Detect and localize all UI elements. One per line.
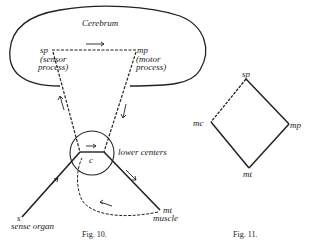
- fig10-caption: Fig. 10.: [82, 230, 107, 239]
- cerebrum-label: Cerebrum: [82, 18, 119, 28]
- sp-mp-edge: [246, 79, 289, 124]
- fig11-mp-label: mp: [290, 120, 301, 130]
- diagram-canvas: Cerebrum sp (sensor process) mp (motor p…: [0, 0, 311, 249]
- arrow-up-icon: [46, 178, 58, 190]
- motor-nerve: [104, 152, 160, 210]
- mp-desc2: process): [135, 62, 166, 72]
- fig11-mt-label: mt: [243, 169, 252, 179]
- arrow-right-icon: [86, 144, 96, 148]
- arrow-left-icon: [100, 200, 112, 206]
- sense-organ-label: sense organ: [11, 221, 54, 231]
- mc-mt-edge: [211, 122, 249, 168]
- figure-10: Cerebrum sp (sensor process) mp (motor p…: [10, 6, 206, 239]
- c-label: c: [89, 155, 93, 165]
- fig11-mc-label: mc: [193, 118, 204, 128]
- lower-centers-label: lower centers: [118, 147, 167, 157]
- arrow-down-icon: [126, 170, 136, 180]
- muscle-label: muscle: [153, 213, 178, 223]
- mp-down-path: [104, 52, 136, 152]
- figure-11: sp mc mp mt Fig. 11.: [193, 69, 301, 239]
- sp-mc-edge: [211, 79, 246, 122]
- fig11-sp-label: sp: [242, 69, 251, 79]
- lower-centers-circle: [70, 131, 114, 175]
- fig11-caption: Fig. 11.: [233, 230, 257, 239]
- mp-mt-edge: [249, 124, 289, 168]
- arrow-down-icon: [121, 104, 126, 118]
- sp-desc2: process): [37, 62, 68, 72]
- arrow-up-icon: [58, 96, 64, 110]
- arrow-right-icon: [86, 42, 104, 46]
